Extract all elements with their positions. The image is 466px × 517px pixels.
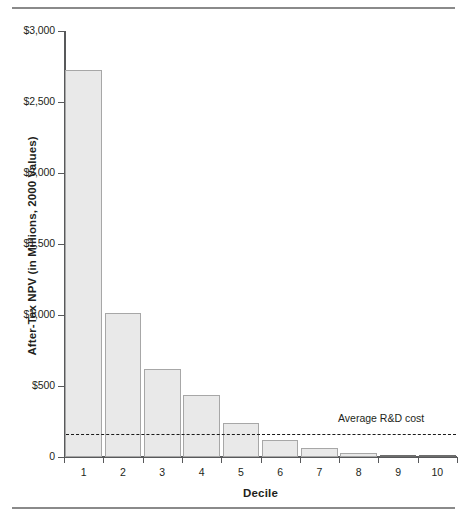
y-tick-label-wrap: $3,000: [0, 25, 55, 36]
y-tick-label: $3,000: [3, 25, 55, 36]
y-tick: [58, 173, 64, 174]
y-tick: [58, 102, 64, 103]
x-tick: [418, 457, 419, 463]
x-tick: [339, 457, 340, 463]
x-tick-label-1: 1: [64, 466, 104, 478]
x-tick: [378, 457, 379, 463]
y-tick: [58, 244, 64, 245]
average-rd-cost-label: Average R&D cost: [338, 412, 424, 424]
bar-decile-2: [105, 313, 142, 457]
y-tick: [58, 31, 64, 32]
bar-decile-8: [340, 453, 377, 457]
x-tick: [300, 457, 301, 463]
bar-decile-3: [144, 369, 181, 457]
x-axis-title: Decile: [64, 487, 457, 499]
x-tick-label-10: 10: [417, 466, 457, 478]
y-tick-label: 0: [3, 451, 55, 462]
bar-decile-6: [262, 440, 299, 457]
x-tick: [64, 457, 65, 463]
bar-decile-1: [65, 70, 102, 457]
x-tick: [182, 457, 183, 463]
bar-decile-5: [223, 423, 260, 457]
y-axis-title: After-Tax NPV (in Millions, 2000 Values): [26, 106, 38, 386]
x-tick-label-3: 3: [142, 466, 182, 478]
x-tick-label-6: 6: [260, 466, 300, 478]
x-tick-label-2: 2: [103, 466, 143, 478]
y-tick: [58, 315, 64, 316]
x-tick-label-8: 8: [339, 466, 379, 478]
x-tick-label-9: 9: [378, 466, 418, 478]
y-tick: [58, 386, 64, 387]
bar-decile-9: [380, 455, 417, 457]
x-tick: [457, 457, 458, 463]
x-tick: [221, 457, 222, 463]
y-tick-label-wrap: 0: [0, 451, 55, 462]
x-tick: [261, 457, 262, 463]
bar-decile-4: [183, 395, 220, 457]
x-tick-label-4: 4: [182, 466, 222, 478]
x-tick-label-5: 5: [221, 466, 261, 478]
bar-decile-10: [419, 455, 456, 457]
bar-decile-7: [301, 448, 338, 457]
bar-chart: 0$500$1,000$1,500$2,000$2,500$3,000 1234…: [0, 0, 466, 517]
x-tick: [103, 457, 104, 463]
average-rd-cost-line: [66, 434, 456, 435]
x-tick: [143, 457, 144, 463]
x-tick-label-7: 7: [299, 466, 339, 478]
